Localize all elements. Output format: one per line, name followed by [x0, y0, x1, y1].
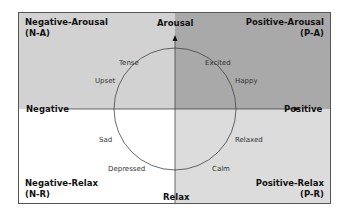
axis-label-arousal: Arousal	[157, 19, 193, 28]
quadrant-title: Negative-Arousal	[25, 17, 108, 28]
quadrant-title: Negative-Relax	[25, 178, 98, 189]
quadrant-code: (N-R)	[25, 189, 98, 200]
quadrant-label-positive-relax: Positive-Relax (P-R)	[256, 178, 324, 200]
emotion-label-excited: Excited	[205, 60, 231, 67]
quadrant-code: (N-A)	[25, 28, 108, 39]
quadrant-title: Positive-Relax	[256, 178, 324, 189]
quadrant-title: Positive-Arousal	[246, 17, 324, 28]
arousal-arrow-icon	[173, 35, 178, 41]
quadrant-label-positive-arousal: Positive-Arousal (P-A)	[246, 17, 324, 39]
emotion-label-depressed: Depressed	[108, 166, 145, 173]
quadrant-code: (P-R)	[256, 189, 324, 200]
emotion-quadrant-diagram: Negative-Arousal (N-A) Positive-Arousal …	[18, 12, 331, 204]
axis-label-negative: Negative	[26, 105, 69, 114]
quadrant-label-negative-relax: Negative-Relax (N-R)	[25, 178, 98, 200]
axis-label-relax: Relax	[163, 193, 189, 202]
emotion-label-calm: Calm	[212, 166, 230, 173]
emotion-label-upset: Upset	[95, 78, 115, 85]
emotion-label-relaxed: Relaxed	[235, 137, 263, 144]
axis-label-positive: Positive	[284, 105, 322, 114]
emotion-label-sad: Sad	[99, 137, 112, 144]
emotion-label-happy: Happy	[235, 78, 258, 85]
quadrant-code: (P-A)	[246, 28, 324, 39]
emotion-label-tense: Tense	[119, 60, 139, 67]
quadrant-label-negative-arousal: Negative-Arousal (N-A)	[25, 17, 108, 39]
